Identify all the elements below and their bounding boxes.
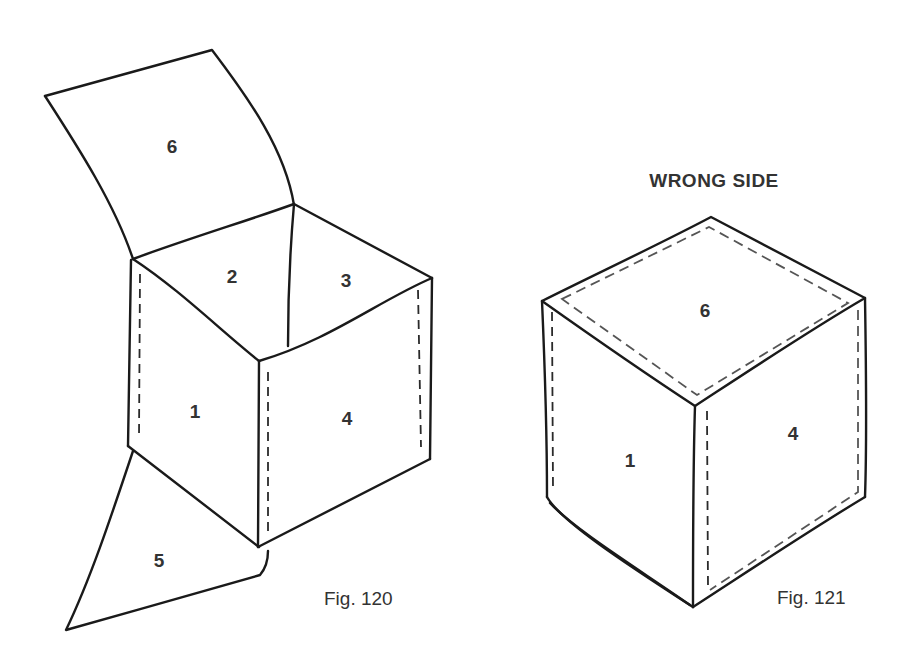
label-fig121-face-6: 6 xyxy=(700,300,711,321)
right-face-seam xyxy=(418,290,421,447)
flap-5-outline xyxy=(66,451,268,630)
label-fig120-face-5: 5 xyxy=(154,550,165,571)
diagram-canvas: 6 2 3 1 4 5 Fig. 120 WRONG SIDE 6 1 4 Fi… xyxy=(0,0,917,664)
label-fig120-face-2: 2 xyxy=(227,266,238,287)
label-fig121-face-1: 1 xyxy=(625,450,636,471)
left-face-bottom-edge xyxy=(547,497,693,607)
label-fig120-face-4: 4 xyxy=(342,408,353,429)
left-face-left-edge xyxy=(128,260,131,446)
label-fig120-face-1: 1 xyxy=(190,401,201,422)
heading-wrong-side: WRONG SIDE xyxy=(649,170,779,191)
right-face-bottom-edge xyxy=(258,459,430,547)
caption-fig-120: Fig. 120 xyxy=(324,588,393,609)
front-corner-seam xyxy=(707,411,708,588)
label-fig120-face-3: 3 xyxy=(341,270,352,291)
top-back-left-edge xyxy=(133,204,294,259)
flap-6-left-edge xyxy=(45,96,133,259)
left-face-seam xyxy=(552,312,553,490)
front-corner-edge xyxy=(258,361,259,547)
flap-6-outline xyxy=(45,50,294,205)
left-face-bottom-edge-double xyxy=(550,503,690,605)
right-face-right-edge xyxy=(865,298,866,497)
label-fig120-face-6: 6 xyxy=(167,136,178,157)
left-face-bottom-edge xyxy=(128,446,259,547)
left-face-left-edge xyxy=(542,301,547,497)
caption-fig-121: Fig. 121 xyxy=(777,587,846,608)
front-corner-edge xyxy=(693,406,695,607)
inner-corner-edge xyxy=(288,204,294,346)
top-back-right-edge xyxy=(294,204,432,278)
figure-120: 6 2 3 1 4 5 Fig. 120 xyxy=(45,50,432,630)
left-face-seam xyxy=(139,274,140,438)
figure-121: WRONG SIDE 6 1 4 Fig. 121 xyxy=(542,170,866,608)
top-front-left-edge xyxy=(133,259,259,361)
right-face-right-edge xyxy=(430,278,432,459)
label-fig121-face-4: 4 xyxy=(788,423,799,444)
